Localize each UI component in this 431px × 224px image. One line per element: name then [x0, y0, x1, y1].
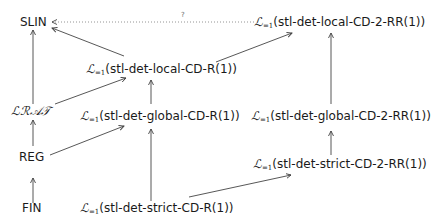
node-label: (stl-det-local-CD-2-RR(1)) [273, 15, 425, 29]
edge-localr-localrr [216, 33, 292, 62]
subscript: =1 [262, 164, 272, 172]
node-label: (stl-det-strict-CD-R(1)) [99, 201, 233, 215]
node-label: (stl-det-global-CD-R(1)) [99, 109, 239, 123]
edge-lrat-localr [55, 78, 126, 104]
edge-reg-globalr [50, 126, 124, 155]
node-fin: FIN [22, 201, 41, 215]
node-label: (stl-det-local-CD-R(1)) [105, 62, 237, 76]
node-lrat: ℒℛ𝒜𝒯 [11, 104, 50, 118]
node-strict-rr: ℒ=1(stl-det-strict-CD-2-RR(1)) [253, 157, 427, 175]
node-local-rr: ℒ=1(stl-det-local-CD-2-RR(1)) [254, 15, 425, 33]
subscript: =1 [260, 116, 270, 124]
node-global-r: ℒ=1(stl-det-global-CD-R(1)) [80, 109, 240, 127]
node-label: (stl-det-global-CD-2-RR(1)) [270, 109, 431, 123]
script-l-symbol: ℒ [251, 109, 260, 123]
edge-localr-slin [52, 28, 124, 56]
node-reg: REG [19, 150, 44, 164]
edge-strictr-strictrr [189, 175, 291, 197]
node-global-rr: ℒ=1(stl-det-global-CD-2-RR(1)) [251, 109, 431, 127]
script-l-symbol: ℒ [86, 62, 95, 76]
script-l-symbol: ℒ [253, 157, 262, 171]
script-l-symbol: ℒ [254, 15, 263, 29]
subscript: =1 [89, 208, 99, 216]
node-lrat-label: ℒℛ𝒜𝒯 [11, 104, 50, 118]
node-local-r: ℒ=1(stl-det-local-CD-R(1)) [86, 62, 237, 80]
script-l-symbol: ℒ [80, 201, 89, 215]
subscript: =1 [89, 116, 99, 124]
node-strict-r: ℒ=1(stl-det-strict-CD-R(1)) [80, 201, 234, 219]
node-label: (stl-det-strict-CD-2-RR(1)) [272, 157, 426, 171]
node-slin: SLIN [20, 15, 47, 29]
subscript: =1 [95, 69, 105, 77]
question-mark-label: ? [181, 11, 185, 19]
subscript: =1 [263, 22, 273, 30]
script-l-symbol: ℒ [80, 109, 89, 123]
